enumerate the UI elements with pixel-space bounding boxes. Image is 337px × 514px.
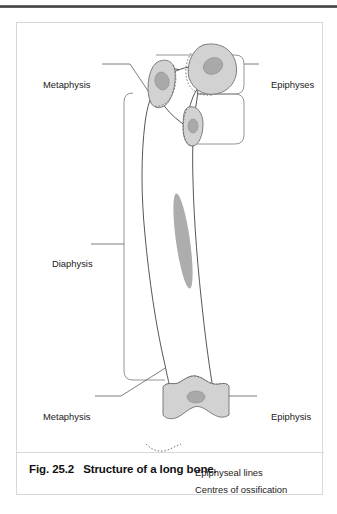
figure-caption-text: Structure of a long bone. — [83, 463, 217, 475]
legend-epiphyseal-line-swatch — [146, 444, 181, 451]
caption-divider — [17, 452, 324, 453]
figure-container: Metaphysis Diaphysis Metaphysis Epiphyse… — [16, 22, 323, 495]
figure-caption: Fig. 25.2Structure of a long bone. — [29, 463, 217, 475]
label-epiphyses: Epiphyses — [271, 79, 314, 90]
top-divider-rule — [0, 5, 337, 8]
ossification-centre-distal — [187, 391, 205, 403]
label-metaphysis-bottom: Metaphysis — [43, 411, 90, 422]
label-diaphysis: Diaphysis — [52, 258, 93, 269]
legend-label-centres-of-ossification: Centres of ossification — [195, 484, 287, 495]
epiphysis-lesser-trochanter — [183, 107, 203, 146]
label-metaphysis-top: Metaphysis — [43, 79, 90, 90]
ossification-centre-lesser-trochanter — [188, 119, 198, 133]
figure-number: Fig. 25.2 — [29, 463, 74, 475]
label-epiphysis: Epiphysis — [271, 411, 311, 422]
